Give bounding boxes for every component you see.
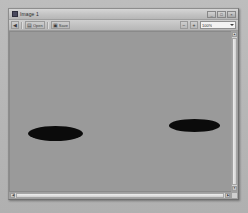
close-button[interactable]: × — [227, 11, 236, 18]
back-button[interactable]: ◀ — [11, 21, 19, 29]
maximize-button[interactable]: □ — [217, 11, 226, 18]
scroll-down-arrow-icon[interactable]: ▼ — [232, 186, 237, 191]
open-button-label: Open — [33, 23, 43, 28]
chevron-down-icon — [230, 24, 234, 26]
canvas-row: ▲ ▼ — [9, 31, 238, 192]
back-arrow-icon: ◀ — [13, 22, 17, 28]
horizontal-scrollbar-row: ◀ ▶ — [9, 192, 238, 199]
zoom-in-button[interactable]: + — [190, 21, 198, 29]
image-canvas[interactable] — [9, 31, 231, 192]
zoom-level-combobox[interactable]: 100% — [200, 21, 236, 29]
toolbar-separator — [21, 22, 23, 29]
folder-icon: ▤ — [27, 22, 32, 28]
application-window: Image 1 _ □ × ◀ ▤ Open ▣ Save — [8, 8, 239, 200]
blob-left — [28, 126, 83, 141]
scroll-left-arrow-icon[interactable]: ◀ — [10, 193, 15, 198]
disk-icon: ▣ — [53, 22, 58, 28]
scroll-right-arrow-icon[interactable]: ▶ — [225, 193, 230, 198]
horizontal-scrollbar-thumb[interactable] — [16, 193, 224, 198]
vertical-scrollbar-thumb[interactable] — [232, 38, 237, 185]
open-button[interactable]: ▤ Open — [25, 21, 45, 29]
window-controls: _ □ × — [207, 11, 236, 18]
scroll-up-arrow-icon[interactable]: ▲ — [232, 32, 237, 37]
zoom-level-value: 100% — [202, 23, 212, 28]
vertical-scrollbar[interactable]: ▲ ▼ — [231, 31, 238, 192]
scrollbar-corner — [231, 192, 238, 199]
canvas-region: ▲ ▼ ◀ ▶ — [9, 31, 238, 199]
toolbar-separator-2 — [47, 22, 49, 29]
blob-right — [169, 119, 220, 132]
window-titlebar[interactable]: Image 1 _ □ × — [9, 9, 238, 20]
zoom-out-button[interactable]: − — [180, 21, 188, 29]
minimize-button[interactable]: _ — [207, 11, 216, 18]
horizontal-scrollbar[interactable]: ◀ ▶ — [9, 192, 231, 199]
window-title: Image 1 — [20, 11, 39, 17]
desktop-background: Image 1 _ □ × ◀ ▤ Open ▣ Save — [0, 0, 248, 213]
app-icon — [12, 11, 18, 17]
save-button[interactable]: ▣ Save — [51, 21, 70, 29]
save-button-label: Save — [59, 23, 68, 28]
toolbar: ◀ ▤ Open ▣ Save − + 100% — [9, 20, 238, 31]
